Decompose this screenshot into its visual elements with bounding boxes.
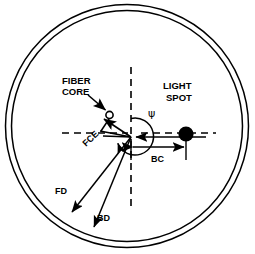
fiber-core-label-line1: FIBER	[62, 75, 91, 86]
fiber-core-stem	[101, 119, 109, 131]
light-spot-circle	[178, 126, 193, 141]
light-spot-label-line2: SPOT	[166, 92, 192, 103]
fiber-core-circle	[106, 111, 113, 118]
fd-ray-line	[72, 137, 131, 212]
psi-angle-label: ψ	[148, 107, 155, 120]
fan-ray-b	[103, 136, 131, 137]
inner-circle-boundary	[12, 11, 243, 242]
outer-circle-boundary	[6, 5, 249, 248]
fd-label: FD	[55, 186, 67, 196]
fiber-probe-diagram: FIBER CORE LIGHT SPOT ψ BC FD BD FCE	[0, 0, 255, 254]
figure-container: FIBER CORE LIGHT SPOT ψ BC FD BD FCE	[0, 0, 255, 254]
fce-label: FCE	[80, 129, 100, 149]
light-spot-label-line1: LIGHT	[163, 80, 192, 91]
fiber-core-label-line2: CORE	[62, 86, 89, 97]
bd-label: BD	[97, 213, 110, 223]
fiber-core-leader-arrow	[88, 95, 106, 110]
bc-label: BC	[151, 154, 164, 164]
